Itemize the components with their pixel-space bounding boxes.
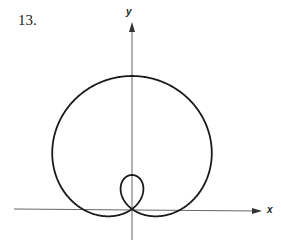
- x-axis-label: x: [267, 204, 273, 215]
- figure: 13. y x: [0, 0, 281, 244]
- x-axis-arrow-icon: [252, 208, 262, 214]
- y-axis-label: y: [126, 6, 132, 17]
- polar-plot: [0, 0, 281, 244]
- y-axis-arrow-icon: [129, 22, 135, 32]
